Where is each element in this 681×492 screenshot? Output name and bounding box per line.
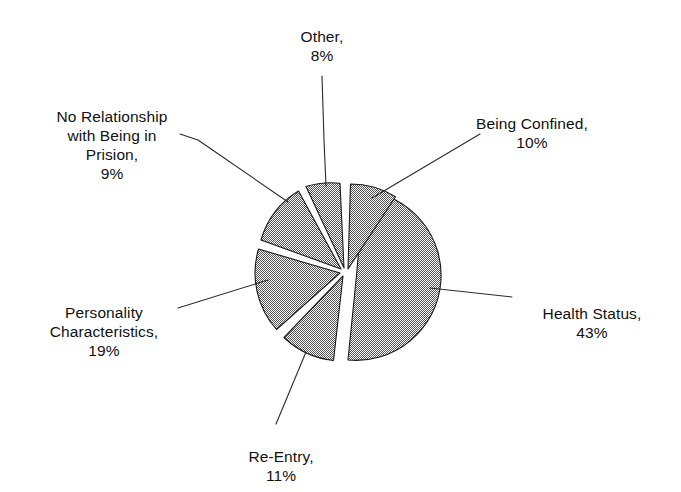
pie-label-re-entry: Re-Entry, 11% [196,428,366,492]
pie-label-being-confined: Being Confined, 10% [432,95,632,171]
pie-chart: Other, 8% No Relationship with Being in … [0,0,681,492]
pie-label-personality-name: Personality Characteristics, [50,304,158,340]
pie-label-health-status: Health Status, 43% [508,285,676,361]
pie-label-other-name: Other, [301,28,344,45]
pie-label-personality-percent: 19% [6,341,202,360]
pie-label-other: Other, 8% [232,8,412,84]
pie-label-re-entry-percent: 11% [196,466,366,485]
leader-line-other [322,76,326,186]
pie-label-being-confined-name: Being Confined, [476,115,588,132]
pie-label-personality: Personality Characteristics, 19% [6,284,202,379]
pie-label-no-relationship-name: No Relationship with Being in Prision, [57,108,168,163]
pie-label-no-relationship: No Relationship with Being in Prision, 9… [6,88,218,202]
pie-label-health-status-percent: 43% [508,323,676,342]
pie-label-re-entry-name: Re-Entry, [248,448,313,465]
pie-label-other-percent: 8% [232,46,412,65]
pie-label-being-confined-percent: 10% [432,133,632,152]
pie-label-health-status-name: Health Status, [543,305,642,322]
leader-line-re-entry [276,352,306,424]
leader-line-health-status [430,288,512,297]
pie-label-no-relationship-percent: 9% [6,164,218,183]
